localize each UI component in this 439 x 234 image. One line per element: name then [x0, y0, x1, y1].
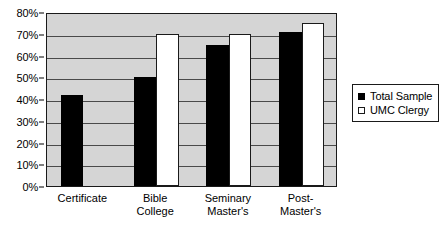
bar-group — [61, 14, 106, 186]
legend-swatch-icon — [358, 107, 365, 114]
legend-item: UMC Clergy — [358, 103, 432, 117]
legend-item: Total Sample — [358, 89, 432, 103]
y-axis-tick-label: 30% — [17, 116, 38, 128]
y-axis-tick-label: 80% — [17, 7, 38, 19]
x-axis-tick-label-line: Master's — [264, 205, 337, 218]
y-axis-tick-label: 60% — [17, 51, 38, 63]
legend-label: Total Sample — [370, 90, 432, 102]
y-axis-tick-mark — [39, 56, 44, 57]
legend-label: UMC Clergy — [370, 104, 429, 116]
bar-group — [134, 14, 179, 186]
y-axis-tick-label: 70% — [17, 29, 38, 41]
bar — [134, 77, 157, 186]
bar-group — [279, 14, 324, 186]
y-axis-tick-label: 0% — [23, 181, 39, 193]
y-axis-tick-mark — [39, 143, 44, 144]
y-axis: 0%10%20%30%40%50%60%70%80% — [0, 13, 44, 187]
bar — [302, 23, 325, 186]
legend-swatch-icon — [358, 93, 365, 100]
y-axis-tick-mark — [39, 13, 44, 14]
y-axis-tick-mark — [39, 165, 44, 166]
y-axis-tick-label: 10% — [17, 159, 38, 171]
bar — [229, 34, 252, 186]
y-axis-tick-mark — [39, 187, 44, 188]
y-axis-tick-mark — [39, 78, 44, 79]
x-axis: CertificateBibleCollegeSeminaryMaster'sP… — [46, 192, 337, 232]
y-axis-tick-label: 20% — [17, 138, 38, 150]
x-axis-tick-label-line: Certificate — [46, 192, 119, 205]
x-axis-tick-label-line: Post- — [264, 192, 337, 205]
legend: Total SampleUMC Clergy — [352, 84, 439, 122]
x-axis-tick-label: Post-Master's — [264, 192, 337, 218]
x-axis-tick-label: SeminaryMaster's — [192, 192, 265, 218]
x-axis-tick-label-line: College — [119, 205, 192, 218]
x-axis-tick-label: BibleCollege — [119, 192, 192, 218]
y-axis-tick-mark — [39, 100, 44, 101]
y-axis-tick-mark — [39, 121, 44, 122]
y-axis-tick-label: 40% — [17, 94, 38, 106]
bars-layer — [47, 14, 336, 186]
y-axis-tick-label: 50% — [17, 72, 38, 84]
y-axis-tick-mark — [39, 34, 44, 35]
x-axis-tick-label-line: Bible — [119, 192, 192, 205]
plot-area — [46, 13, 337, 187]
bar — [206, 45, 229, 186]
x-axis-tick-label-line: Seminary — [192, 192, 265, 205]
x-axis-tick-label-line: Master's — [192, 205, 265, 218]
x-axis-tick-label: Certificate — [46, 192, 119, 205]
bar — [156, 34, 179, 186]
bar-group — [206, 14, 251, 186]
bar — [279, 32, 302, 186]
bar — [61, 95, 84, 186]
